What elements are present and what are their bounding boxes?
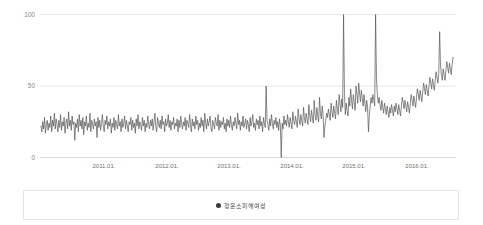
y-tick-label-0: 0 xyxy=(31,154,35,161)
chart-card: 100 50 0 2011.01. 2012.01. 2013.01. 2014… xyxy=(0,0,483,182)
x-axis-labels: 2011.01. 2012.01. 2013.01. 2014.01. 2015… xyxy=(93,163,429,169)
x-tick-label-2012: 2012.01. xyxy=(155,163,179,169)
x-tick-label-2015: 2015.01. xyxy=(342,163,366,169)
legend: 정운소피해여성 xyxy=(23,190,459,220)
legend-dot-icon xyxy=(216,203,221,208)
y-axis-labels: 100 50 0 xyxy=(24,11,35,161)
x-tick-label-2011: 2011.01. xyxy=(93,163,116,169)
x-tick-label-2013: 2013.01. xyxy=(217,163,241,169)
x-tick-label-2016: 2016.01. xyxy=(405,163,429,169)
y-tick-label-100: 100 xyxy=(24,11,35,18)
legend-label: 정운소피해여성 xyxy=(224,201,267,210)
gridlines xyxy=(40,15,456,158)
legend-item[interactable]: 정운소피해여성 xyxy=(216,201,267,210)
y-tick-label-50: 50 xyxy=(28,82,36,89)
trends-line-chart[interactable]: 100 50 0 2011.01. 2012.01. 2013.01. 2014… xyxy=(0,0,483,182)
x-tick-label-2014: 2014.01. xyxy=(280,163,304,169)
